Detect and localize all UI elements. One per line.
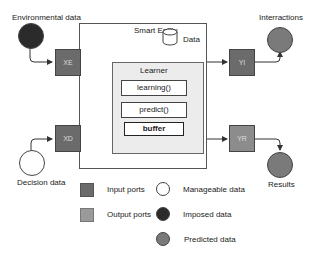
buffer-block: buffer <box>124 122 184 136</box>
data-store-label: Data <box>183 35 200 44</box>
legend-manageable: Manageable data <box>183 185 245 194</box>
legend-imposed-swatch <box>156 207 170 221</box>
legend-output-ports: Output ports <box>107 210 151 219</box>
legend-imposed: Imposed data <box>183 210 231 219</box>
legend-predicted: Predicted data <box>184 235 236 244</box>
decision-data-node <box>19 150 45 176</box>
port-yr: YR <box>229 125 255 152</box>
results-node <box>267 152 293 178</box>
legend-input-port-swatch <box>80 183 94 197</box>
port-xe: XE <box>55 49 81 76</box>
port-xd: XD <box>55 125 81 152</box>
decision-data-label: Decision data <box>17 178 65 187</box>
learner-label: Learner <box>140 66 168 75</box>
interactions-label: Interractions <box>259 13 303 22</box>
results-label: Results <box>268 180 295 189</box>
legend-output-port-swatch <box>80 208 94 222</box>
legend-predicted-swatch <box>156 232 170 246</box>
legend-input-ports: Input ports <box>107 185 145 194</box>
learning-method: learning() <box>121 80 187 96</box>
environmental-data-label: Environmental data <box>12 13 81 22</box>
database-icon <box>161 28 179 46</box>
predict-method: predict() <box>121 102 187 118</box>
environmental-data-node <box>18 23 44 49</box>
interactions-node <box>267 27 293 53</box>
port-yi: YI <box>229 49 255 76</box>
legend-manageable-swatch <box>156 182 170 196</box>
